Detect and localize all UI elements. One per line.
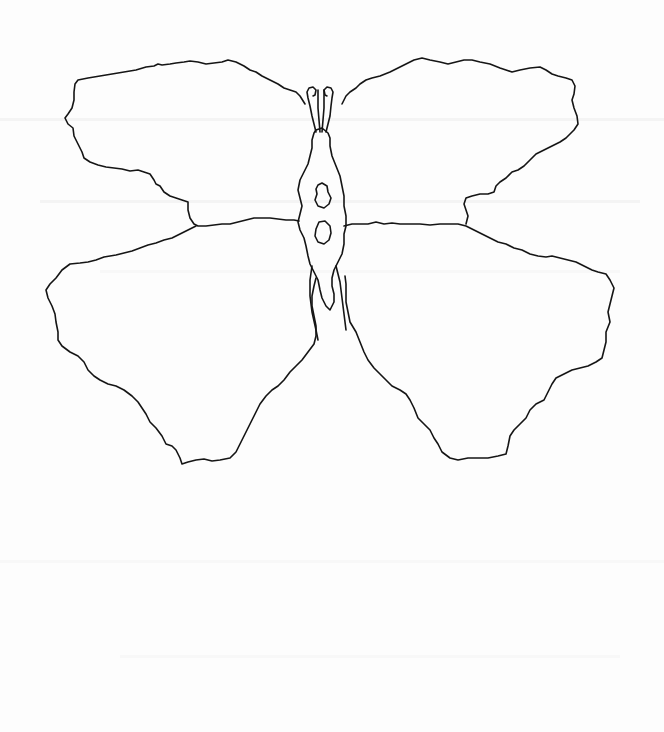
antenna-left xyxy=(307,87,316,132)
antenna-right xyxy=(324,87,333,132)
paper-background xyxy=(0,0,664,732)
body-outline xyxy=(298,128,346,310)
antenna-left-inner xyxy=(318,90,320,132)
butterfly-drawing xyxy=(0,0,664,732)
right-hindwing xyxy=(344,222,614,460)
antenna-right-inner xyxy=(322,90,324,132)
left-forewing xyxy=(65,60,305,226)
right-forewing xyxy=(342,58,578,224)
left-hindwing xyxy=(46,226,316,464)
body-spot-lower xyxy=(315,221,331,244)
body-spot-upper xyxy=(315,183,331,208)
